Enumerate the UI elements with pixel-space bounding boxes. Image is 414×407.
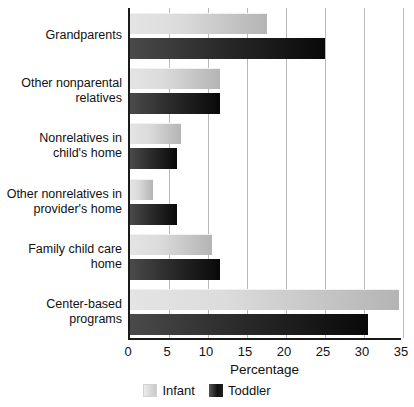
x-tick-label: 15 — [238, 344, 252, 359]
bar-group — [130, 285, 401, 340]
bar-group — [130, 229, 401, 284]
bar-group — [130, 63, 401, 118]
x-tick-label: 20 — [277, 344, 291, 359]
bar-rows — [130, 8, 401, 338]
bar-toddler — [130, 204, 177, 225]
x-tick-label: 35 — [394, 344, 408, 359]
bar-toddler — [130, 259, 220, 280]
legend-entry-infant: Infant — [143, 383, 195, 398]
y-axis-label: Grandparents — [0, 28, 122, 43]
bar-toddler — [130, 38, 325, 59]
y-axis-label: Family child care home — [0, 242, 122, 272]
y-axis-label: Center-based programs — [0, 297, 122, 327]
legend-entry-toddler: Toddler — [209, 383, 271, 398]
legend-label-toddler: Toddler — [228, 383, 271, 398]
bar-toddler — [130, 314, 368, 335]
bar-toddler — [130, 148, 177, 169]
plot-area — [128, 8, 401, 340]
y-axis-label: Other nonrelatives in provider's home — [0, 187, 122, 217]
gridline — [403, 8, 404, 338]
y-axis-labels: Grandparents Other nonparental relatives… — [0, 8, 122, 340]
x-tick-label: 0 — [124, 344, 131, 359]
bar-infant — [130, 289, 399, 310]
bar-infant — [130, 13, 267, 34]
bar-group — [130, 174, 401, 229]
bar-chart: Grandparents Other nonparental relatives… — [0, 0, 414, 407]
bar-toddler — [130, 93, 220, 114]
x-axis-title: Percentage — [128, 362, 401, 377]
legend-swatch-toddler-icon — [209, 384, 223, 397]
x-tick-label: 30 — [355, 344, 369, 359]
legend-swatch-infant-icon — [143, 384, 157, 397]
bar-infant — [130, 234, 212, 255]
y-axis-label: Other nonparental relatives — [0, 76, 122, 106]
x-axis-ticks: 05101520253035 — [0, 344, 414, 362]
x-tick-label: 25 — [316, 344, 330, 359]
bar-group — [130, 8, 401, 63]
x-tick-label: 10 — [199, 344, 213, 359]
legend-label-infant: Infant — [162, 383, 195, 398]
bar-infant — [130, 123, 181, 144]
bar-infant — [130, 179, 153, 200]
bar-group — [130, 119, 401, 174]
chart-legend: Infant Toddler — [0, 383, 414, 398]
bar-infant — [130, 68, 220, 89]
x-tick-label: 5 — [163, 344, 170, 359]
y-axis-label: Nonrelatives in child's home — [0, 131, 122, 161]
